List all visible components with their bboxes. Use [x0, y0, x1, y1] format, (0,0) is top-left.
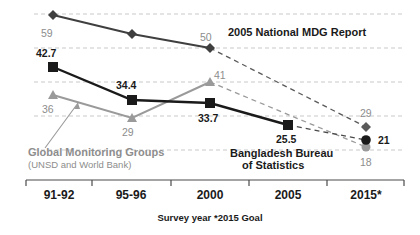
series-mdg-marker-95-96 — [127, 29, 137, 39]
series-bbs-marker-91-92 — [48, 62, 58, 72]
data-label-bbs-42-7: 42.7 — [36, 48, 56, 59]
data-label-mdg-29: 29 — [360, 108, 372, 119]
chart-container: 59 50 29 42.7 34.4 33.7 25.5 21 36 29 41… — [0, 0, 420, 235]
series-bbs-marker-2000 — [205, 98, 215, 108]
series-bbs — [48, 62, 371, 145]
x-tick-label-95-96: 95-96 — [96, 188, 166, 202]
data-label-bbs-33-7: 33.7 — [198, 113, 218, 124]
annotation-bbs-line1: Bangladesh Bureau — [230, 147, 333, 159]
series-bbs-dashed-segment — [288, 125, 366, 140]
x-tick-label-2005: 2005 — [253, 188, 323, 202]
data-label-bbs-34-4: 34.4 — [116, 80, 136, 91]
data-label-gmg-18: 18 — [360, 157, 372, 168]
annotation-gmg-line1: Global Monitoring Groups — [28, 146, 164, 158]
data-label-gmg-29: 29 — [122, 127, 134, 138]
x-tick-label-2000: 2000 — [175, 188, 245, 202]
annotation-gmg-line2: (UNSD and World Bank) — [28, 159, 131, 170]
series-bbs-marker-2005 — [283, 120, 293, 130]
x-axis — [26, 180, 404, 186]
data-label-bbs-25-5: 25.5 — [276, 134, 296, 145]
series-mdg-marker-2000 — [205, 43, 215, 53]
data-label-mdg-50: 50 — [200, 32, 212, 43]
series-bbs-marker-95-96 — [127, 95, 137, 105]
series-mdg-marker-91-92 — [48, 10, 58, 20]
series-bbs-marker-2015 — [361, 135, 371, 145]
series-mdg-marker-2015 — [361, 122, 371, 132]
annotation-bbs-line2: of Statistics — [242, 159, 304, 171]
series-gmg-marker-91-92 — [48, 90, 58, 99]
data-label-gmg-41: 41 — [214, 70, 226, 81]
data-label-mdg-59: 59 — [41, 28, 53, 39]
x-tick-label-2015: 2015* — [331, 188, 401, 202]
x-axis-caption: Survey year *2015 Goal — [0, 212, 420, 223]
x-tick-label-91-92: 91-92 — [24, 188, 94, 202]
annotation-mdg-report: 2005 National MDG Report — [228, 26, 366, 38]
data-label-bbs-21: 21 — [378, 135, 390, 146]
data-label-gmg-36: 36 — [42, 104, 54, 115]
